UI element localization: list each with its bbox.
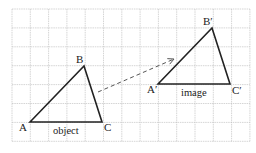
vertex-label-a: A [19, 121, 27, 133]
image-label: image [181, 87, 207, 98]
diagram-canvas: A B C object A′ B′ C′ image [0, 0, 256, 153]
translation-arrow [98, 59, 174, 92]
image-triangle [158, 28, 230, 84]
vertex-label-c-prime: C′ [232, 84, 242, 96]
object-triangle [30, 66, 102, 122]
translation-diagram: A B C object A′ B′ C′ image [0, 0, 256, 153]
vertex-label-c: C [104, 121, 111, 133]
object-label: object [53, 125, 79, 136]
vertex-label-a-prime: A′ [147, 83, 157, 95]
vertex-label-b: B [76, 53, 83, 65]
vertex-label-b-prime: B′ [203, 15, 213, 27]
